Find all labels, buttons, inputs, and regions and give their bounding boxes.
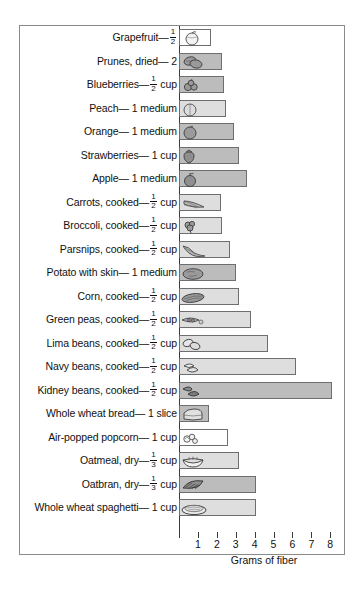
- tick-label-1: 1: [195, 538, 201, 550]
- chart-row-whole-wheat-bread: Whole wheat bread— 1 slice: [20, 402, 344, 426]
- row-label-orange: Orange— 1 medium: [84, 120, 177, 144]
- tick-label-6: 6: [289, 538, 295, 550]
- row-label-carrots: Carrots, cooked—12 cup: [66, 191, 177, 215]
- prunes-icon: [181, 55, 207, 70]
- bar-carrots: [179, 194, 221, 211]
- fraction-kidney-beans: 12: [150, 381, 156, 399]
- row-label-grapefruit: Grapefruit—12: [113, 26, 177, 50]
- chart-row-navy-beans: Navy beans, cooked—12 cup: [20, 355, 344, 379]
- chart-row-broccoli: Broccoli, cooked—12 cup: [20, 214, 344, 238]
- row-label-unit: cup: [158, 384, 177, 396]
- bar-navy-beans: [179, 358, 296, 375]
- row-label-text: Green peas, cooked—: [46, 313, 149, 325]
- row-label-unit: cup: [158, 360, 177, 372]
- row-label-unit: cup: [158, 243, 177, 255]
- chart-row-blueberries: Blueberries—12 cup: [20, 73, 344, 97]
- chart-row-potato: Potato with skin— 1 medium: [20, 261, 344, 285]
- row-label-text: Strawberries— 1 cup: [81, 149, 177, 161]
- row-label-text: Peach— 1 medium: [89, 102, 177, 114]
- row-label-text: Oatmeal, dry—: [80, 454, 149, 466]
- bar-prunes: [179, 53, 222, 70]
- apple-icon: [181, 172, 207, 187]
- row-label-green-peas: Green peas, cooked—12 cup: [46, 308, 177, 332]
- chart-row-orange: Orange— 1 medium: [20, 120, 344, 144]
- row-label-navy-beans: Navy beans, cooked—12 cup: [45, 355, 177, 379]
- parsnips-icon: [181, 243, 207, 258]
- row-label-text: Whole wheat spaghetti— 1 cup: [34, 501, 177, 513]
- chart-row-carrots: Carrots, cooked—12 cup: [20, 191, 344, 215]
- oatbran-icon: [181, 478, 207, 493]
- kidney-icon: [181, 384, 207, 399]
- chart-row-green-peas: Green peas, cooked—12 cup: [20, 308, 344, 332]
- peach-icon: [181, 102, 207, 117]
- row-label-oatbran: Oatbran, dry—13 cup: [82, 473, 177, 497]
- row-label-text: Orange— 1 medium: [84, 125, 177, 137]
- bar-parsnips: [179, 241, 230, 258]
- row-label-text: Potato with skin— 1 medium: [47, 266, 177, 278]
- row-label-strawberries: Strawberries— 1 cup: [81, 144, 177, 168]
- chart-row-prunes: Prunes, dried— 2: [20, 50, 344, 74]
- fraction-carrots: 12: [150, 193, 156, 211]
- row-label-unit: cup: [158, 290, 177, 302]
- chart-row-oatbran: Oatbran, dry—13 cup: [20, 473, 344, 497]
- row-label-text: Broccoli, cooked—: [63, 219, 149, 231]
- tick-label-2: 2: [214, 538, 220, 550]
- row-label-unit: cup: [158, 478, 177, 490]
- bar-spaghetti: [179, 499, 256, 516]
- chart-row-spaghetti: Whole wheat spaghetti— 1 cup: [20, 496, 344, 520]
- bar-corn: [179, 288, 239, 305]
- chart-row-oatmeal: Oatmeal, dry—13 cup: [20, 449, 344, 473]
- row-label-corn: Corn, cooked—12 cup: [78, 285, 177, 309]
- row-label-unit: cup: [158, 337, 177, 349]
- bar-orange: [179, 123, 234, 140]
- corn-icon: [181, 290, 207, 305]
- fraction-oatbran: 13: [150, 475, 156, 493]
- row-label-blueberries: Blueberries—12 cup: [87, 73, 177, 97]
- row-label-popcorn: Air-popped popcorn— 1 cup: [48, 426, 177, 450]
- fraction-lima-beans: 12: [150, 334, 156, 352]
- fiber-bar-chart: Grapefruit—12Prunes, dried— 2Blueberries…: [19, 25, 345, 555]
- peas-icon: [181, 313, 207, 328]
- row-label-text: Parsnips, cooked—: [60, 243, 149, 255]
- bar-kidney-beans: [179, 382, 332, 399]
- chart-row-grapefruit: Grapefruit—12: [20, 26, 344, 50]
- row-label-text: Carrots, cooked—: [66, 196, 149, 208]
- orange-icon: [181, 125, 207, 140]
- x-axis-title: Grams of fiber: [231, 554, 298, 566]
- bar-broccoli: [179, 217, 222, 234]
- fraction-grapefruit: 12: [170, 28, 176, 46]
- fraction-parsnips: 12: [150, 240, 156, 258]
- row-label-peach: Peach— 1 medium: [89, 97, 177, 121]
- row-label-potato: Potato with skin— 1 medium: [47, 261, 177, 285]
- bar-lima-beans: [179, 335, 268, 352]
- row-label-text: Oatbran, dry—: [82, 478, 150, 490]
- bar-apple: [179, 170, 247, 187]
- row-label-text: Whole wheat bread— 1 slice: [46, 407, 177, 419]
- broccoli-icon: [181, 219, 207, 234]
- lima-icon: [181, 337, 207, 352]
- bar-popcorn: [179, 429, 228, 446]
- bar-blueberries: [179, 76, 224, 93]
- fraction-corn: 12: [150, 287, 156, 305]
- tick-label-8: 8: [327, 538, 333, 550]
- chart-row-lima-beans: Lima beans, cooked—12 cup: [20, 332, 344, 356]
- popcorn-icon: [181, 431, 207, 446]
- bar-green-peas: [179, 311, 251, 328]
- row-label-unit: cup: [158, 313, 177, 325]
- row-label-lima-beans: Lima beans, cooked—12 cup: [47, 332, 177, 356]
- strawberry-icon: [181, 149, 207, 164]
- fraction-blueberries: 12: [150, 75, 156, 93]
- blueberries-icon: [181, 78, 207, 93]
- row-label-text: Apple— 1 medium: [92, 172, 177, 184]
- row-label-unit: cup: [158, 78, 177, 90]
- spaghetti-icon: [181, 501, 207, 516]
- oatmeal-icon: [181, 454, 207, 469]
- bar-peach: [179, 100, 226, 117]
- row-label-unit: cup: [158, 219, 177, 231]
- x-axis-tick-labels: 12345678: [20, 538, 344, 554]
- row-label-spaghetti: Whole wheat spaghetti— 1 cup: [34, 496, 177, 520]
- fraction-oatmeal: 13: [150, 451, 156, 469]
- row-label-text: Navy beans, cooked—: [45, 360, 149, 372]
- bar-whole-wheat-bread: [179, 405, 209, 422]
- row-label-text: Grapefruit—: [113, 31, 169, 43]
